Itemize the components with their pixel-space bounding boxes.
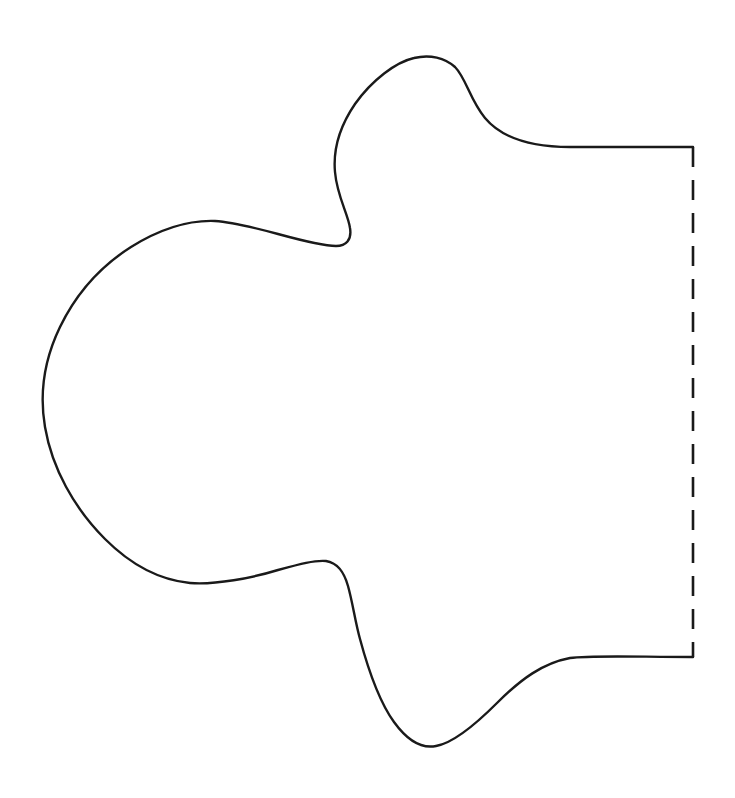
template-drawing	[0, 0, 735, 798]
canvas-background	[0, 0, 735, 798]
template-canvas	[0, 0, 735, 798]
